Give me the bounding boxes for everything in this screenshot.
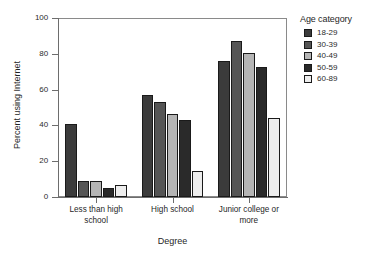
legend-item: 30-39: [300, 41, 370, 49]
legend-title: Age category: [300, 14, 370, 24]
legend-item: 18-29: [300, 29, 370, 37]
y-tick-label: 40: [0, 121, 48, 129]
legend-swatch: [304, 64, 312, 72]
legend-swatch: [304, 41, 312, 49]
legend-label: 60-89: [317, 75, 337, 83]
legend-label: 50-59: [317, 64, 337, 72]
grouped-bar-chart: Percent using Internet 020406080100 Less…: [0, 0, 370, 261]
x-tick: [173, 197, 174, 203]
bar: [167, 114, 179, 197]
x-tick-label: Junior college or more: [199, 205, 299, 226]
bar: [115, 185, 127, 197]
bar: [90, 181, 102, 197]
bar: [268, 118, 280, 197]
legend-item: 50-59: [300, 64, 370, 72]
bar: [78, 181, 90, 197]
bar: [142, 95, 154, 197]
legend-label: 18-29: [317, 29, 337, 37]
bar: [179, 120, 191, 197]
y-tick-label: 20: [0, 157, 48, 165]
bar: [256, 67, 268, 197]
legend-item: 60-89: [300, 75, 370, 83]
x-tick: [249, 197, 250, 203]
bar: [65, 124, 77, 197]
legend-label: 40-49: [317, 52, 337, 60]
bar: [192, 171, 204, 197]
legend-label: 30-39: [317, 41, 337, 49]
legend-swatch: [304, 75, 312, 83]
legend-item: 40-49: [300, 52, 370, 60]
bar: [154, 102, 166, 197]
y-tick-label: 60: [0, 86, 48, 94]
legend-swatch: [304, 52, 312, 60]
bar: [231, 41, 243, 197]
legend-entries: 18-2930-3940-4950-5960-89: [300, 29, 370, 83]
legend-swatch: [304, 29, 312, 37]
bar: [243, 53, 255, 197]
legend: Age category 18-2930-3940-4950-5960-89: [300, 14, 370, 87]
y-tick-label: 0: [0, 193, 48, 201]
bar: [218, 61, 230, 197]
bar: [103, 188, 115, 197]
y-tick-label: 100: [0, 14, 48, 22]
x-tick: [96, 197, 97, 203]
bars-layer: [58, 18, 287, 197]
x-axis-title: Degree: [58, 236, 287, 246]
y-tick-label: 80: [0, 50, 48, 58]
